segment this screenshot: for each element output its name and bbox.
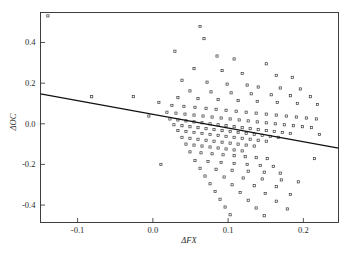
data-point — [316, 103, 318, 105]
y-tick-label: -0.4 — [22, 200, 36, 210]
data-point — [158, 101, 160, 103]
data-point — [253, 133, 255, 135]
data-point — [221, 129, 223, 131]
data-point — [237, 99, 239, 101]
data-point — [181, 136, 183, 138]
data-point — [210, 91, 212, 93]
data-point — [132, 96, 134, 98]
data-point — [174, 50, 176, 52]
y-tick-label: -0.2 — [22, 159, 35, 169]
data-point — [261, 178, 263, 180]
data-point — [257, 86, 259, 88]
data-point — [211, 116, 213, 118]
data-point — [238, 119, 240, 121]
data-point — [225, 125, 227, 127]
data-point — [189, 137, 191, 139]
y-tick-label: 0.2 — [25, 78, 36, 88]
data-point — [193, 144, 195, 146]
data-point — [265, 140, 267, 142]
data-point — [241, 150, 243, 152]
data-point — [280, 179, 282, 181]
y-axis-ticks — [41, 42, 46, 205]
data-point — [193, 68, 195, 70]
data-point — [310, 127, 312, 129]
data-point — [91, 96, 93, 98]
data-point — [255, 157, 257, 159]
data-point — [313, 158, 315, 160]
data-point — [222, 154, 224, 156]
data-point — [189, 126, 191, 128]
data-point — [202, 115, 204, 117]
data-point — [291, 76, 293, 78]
data-point — [175, 112, 177, 114]
data-point — [171, 104, 173, 106]
data-point — [279, 172, 281, 174]
data-point — [305, 117, 307, 119]
x-tick-label: 0.0 — [148, 225, 159, 235]
data-point — [257, 139, 259, 141]
data-point — [229, 130, 231, 132]
data-point — [173, 124, 175, 126]
data-point — [197, 127, 199, 129]
data-point — [289, 95, 291, 97]
data-point — [220, 161, 222, 163]
data-point — [296, 102, 298, 104]
data-point — [318, 133, 320, 135]
data-point — [270, 94, 272, 96]
data-point — [259, 164, 261, 166]
data-point — [193, 131, 195, 133]
data-point — [246, 84, 248, 86]
data-points — [47, 15, 321, 217]
data-point — [209, 183, 211, 185]
data-point — [233, 162, 235, 164]
data-point — [211, 153, 213, 155]
data-point — [193, 114, 195, 116]
data-point — [215, 108, 217, 110]
data-point — [231, 184, 233, 186]
data-point — [177, 129, 179, 131]
data-point — [315, 118, 317, 120]
data-point — [209, 146, 211, 148]
data-point — [220, 117, 222, 119]
x-tick-label: 0.2 — [298, 225, 309, 235]
data-point — [181, 79, 183, 81]
data-point — [204, 175, 206, 177]
data-point — [233, 58, 235, 60]
data-point — [216, 55, 218, 57]
data-point — [242, 177, 244, 179]
data-point — [233, 155, 235, 157]
data-point — [207, 160, 209, 162]
data-point — [241, 127, 243, 129]
data-point — [194, 106, 196, 108]
data-point — [265, 63, 267, 65]
data-point — [199, 167, 201, 169]
data-point — [224, 206, 226, 208]
data-point — [229, 142, 231, 144]
data-point — [301, 126, 303, 128]
data-point — [253, 145, 255, 147]
data-point — [148, 115, 150, 117]
axes-frame — [41, 13, 339, 223]
data-point — [292, 125, 294, 127]
data-point — [185, 143, 187, 145]
data-point — [225, 148, 227, 150]
data-point — [214, 190, 216, 192]
data-point — [221, 69, 223, 71]
data-point — [217, 99, 219, 101]
data-point — [263, 171, 265, 173]
data-point — [250, 93, 252, 95]
data-point — [297, 181, 299, 183]
data-point — [247, 120, 249, 122]
data-point — [223, 176, 225, 178]
data-point — [229, 214, 231, 216]
data-point — [245, 144, 247, 146]
data-point — [239, 191, 241, 193]
data-point — [184, 113, 186, 115]
data-point — [160, 163, 162, 165]
plot-frame — [41, 13, 339, 223]
data-point — [295, 116, 297, 118]
data-point — [177, 97, 179, 99]
data-point — [246, 163, 248, 165]
data-point — [166, 111, 168, 113]
data-point — [265, 113, 267, 115]
